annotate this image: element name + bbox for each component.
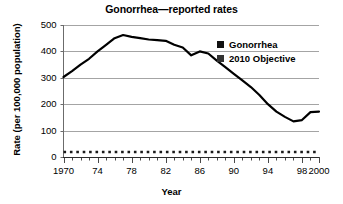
legend-item-2010-objective: 2010 Objective bbox=[217, 52, 296, 65]
y-tick-label: 300 bbox=[27, 73, 57, 83]
x-tick-label: 82 bbox=[149, 166, 183, 176]
legend-label: 2010 Objective bbox=[229, 53, 296, 64]
y-tick-label: 500 bbox=[27, 20, 57, 30]
legend-item-gonorrhea: Gonorrhea bbox=[217, 38, 296, 51]
x-tick-label: 94 bbox=[251, 166, 285, 176]
x-tick-label: 2000 bbox=[302, 166, 336, 176]
legend-label: Gonorrhea bbox=[229, 39, 278, 50]
x-tick-label: 86 bbox=[183, 166, 217, 176]
y-tick-label: 200 bbox=[27, 99, 57, 109]
chart-legend: Gonorrhea 2010 Objective bbox=[217, 38, 296, 66]
chart-container: Gonorrhea—reported rates Rate (per 100,0… bbox=[0, 0, 343, 204]
x-tick-label: 78 bbox=[115, 166, 149, 176]
legend-swatch-icon bbox=[217, 41, 224, 48]
x-tick-label: 1970 bbox=[47, 166, 81, 176]
x-tick-label: 90 bbox=[217, 166, 251, 176]
x-tick-label: 74 bbox=[81, 166, 115, 176]
y-tick-label: 0 bbox=[27, 152, 57, 162]
y-tick-label: 100 bbox=[27, 126, 57, 136]
legend-swatch-icon bbox=[217, 55, 224, 62]
y-tick-label: 400 bbox=[27, 46, 57, 56]
